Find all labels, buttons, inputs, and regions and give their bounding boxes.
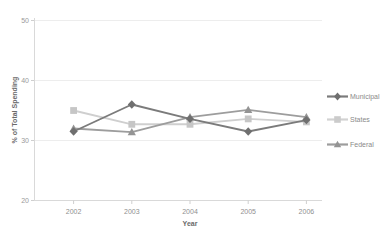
legend-label-federal: Federal <box>350 141 374 148</box>
x-tick-label-2005: 2005 <box>240 208 256 215</box>
gridlines <box>34 21 322 141</box>
data-point-municipal-2005 <box>244 127 252 135</box>
data-point-municipal-2003 <box>128 100 136 108</box>
legend-item-states[interactable]: States <box>327 116 370 123</box>
x-axis-title: Year <box>183 220 198 227</box>
y-tick-label-2: 40 <box>21 77 29 84</box>
data-point-states-2002 <box>70 107 77 114</box>
legend-item-federal[interactable]: Federal <box>327 141 374 148</box>
y-axis-title: % of Total Spending <box>11 77 19 144</box>
legend-marker-municipal <box>334 93 341 101</box>
y-tick-labels: 50 40 30 20 <box>21 17 29 204</box>
legend-label-states: States <box>350 116 370 123</box>
series-layer <box>70 100 311 135</box>
x-tick-label-2006: 2006 <box>299 208 315 215</box>
y-tick-label-3: 50 <box>21 17 29 24</box>
y-tick-label-0: 20 <box>21 197 29 204</box>
x-tick-label-2003: 2003 <box>124 208 140 215</box>
data-point-states-2005 <box>245 116 252 123</box>
legend: Municipal States Federal <box>327 93 380 148</box>
line-chart: 50 40 30 20 2002 2003 2004 2005 2006 Yea… <box>0 0 390 247</box>
data-point-states-2003 <box>128 121 135 128</box>
legend-label-municipal: Municipal <box>350 93 380 101</box>
x-tick-label-2002: 2002 <box>66 208 82 215</box>
x-tick-labels: 2002 2003 2004 2005 2006 <box>66 208 314 215</box>
y-tick-label-1: 30 <box>21 137 29 144</box>
legend-item-municipal[interactable]: Municipal <box>327 93 380 101</box>
legend-marker-states <box>334 116 341 123</box>
chart-container: 50 40 30 20 2002 2003 2004 2005 2006 Yea… <box>0 0 390 247</box>
x-tick-label-2004: 2004 <box>182 208 198 215</box>
